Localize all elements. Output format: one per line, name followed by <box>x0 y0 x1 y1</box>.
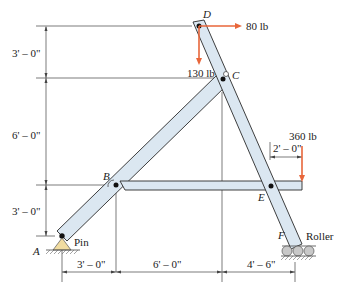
force-360-label: 360 lb <box>289 130 317 142</box>
dim-label-horizontal-1: 3' – 0" <box>77 258 105 270</box>
roller-wheel-icon <box>293 246 303 256</box>
point-label-b: B <box>103 170 110 182</box>
joint-e <box>269 184 274 189</box>
ground-hatch-f <box>281 256 313 260</box>
roller-wheel-icon <box>304 246 314 256</box>
arrow-icon <box>62 271 67 274</box>
arrow-icon <box>116 271 121 274</box>
force-80-label: 80 lb <box>246 20 269 32</box>
joint-c <box>221 77 226 82</box>
arrow-icon <box>45 26 48 31</box>
dim-label-horizontal-3: 4' – 6" <box>247 258 275 270</box>
support-label-roller: Roller <box>306 230 334 242</box>
arrow-icon <box>196 58 202 65</box>
arrow-icon <box>222 271 227 274</box>
arrow-icon <box>45 78 48 83</box>
member-df <box>193 20 302 249</box>
frame-diagram: 3' – 0" 6' – 0" 3' – 0" 3' – 0" 6' – 0" … <box>0 0 346 295</box>
point-label-e: E <box>257 191 265 203</box>
member-ac <box>57 74 228 241</box>
arrow-icon <box>45 180 48 185</box>
arrow-icon <box>111 271 116 274</box>
dim-label-horizontal-2: 6' – 0" <box>153 258 181 270</box>
arrow-icon <box>45 73 48 78</box>
dim-label-vertical-3: 3' – 0" <box>12 205 40 217</box>
point-label-f: F <box>277 229 285 241</box>
arrow-icon <box>45 185 48 190</box>
roller-wheel-icon <box>282 246 292 256</box>
joint-b <box>114 183 119 188</box>
arrow-icon <box>45 231 48 236</box>
point-label-a: A <box>32 245 40 257</box>
point-label-d: D <box>202 8 211 20</box>
dim-label-vertical-1: 3' – 0" <box>12 47 40 59</box>
force-130-label: 130 lb <box>187 67 215 79</box>
arrow-icon <box>290 271 295 274</box>
joint-c-hole <box>224 72 229 77</box>
arrow-icon <box>270 156 275 159</box>
dim-label-vertical-2: 6' – 0" <box>12 129 40 141</box>
dim-label-overhang: 2' – 0" <box>273 142 301 154</box>
point-label-c: C <box>232 69 240 81</box>
support-label-pin: Pin <box>74 236 89 248</box>
arrow-icon <box>217 271 222 274</box>
arrow-icon <box>235 23 242 29</box>
